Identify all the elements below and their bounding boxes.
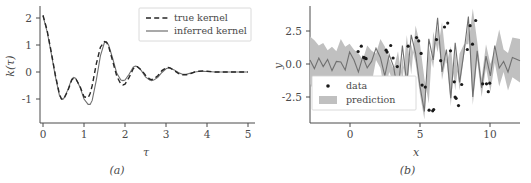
x-tick-a-1: 1 <box>81 128 88 140</box>
prediction-plot: 0 5 10 2.5 0.0 -2.5 x y <box>266 0 531 183</box>
x-tick-a-0: 0 <box>40 128 47 140</box>
x-axis-label-b: x <box>413 146 420 159</box>
panel-b-caption: (b) <box>266 164 531 177</box>
y-tick-b-neg: -2.5 <box>282 91 302 103</box>
legend-a-label-inferred: inferred kernel <box>174 25 247 36</box>
legend-b-band-swatch <box>319 96 337 104</box>
x-tick-a-3: 3 <box>163 128 170 140</box>
y-tick-b-pos: 2.5 <box>285 25 302 37</box>
y-axis-label-a: k(τ) <box>4 55 17 76</box>
x-tick-a-4: 4 <box>204 128 211 140</box>
y-tick-b-zero: 0.0 <box>285 58 302 70</box>
kernel-plot: 0 1 2 3 4 5 2 1 0 -1 τ k(τ) <box>0 0 266 183</box>
y-tick-a-neg1: -1 <box>22 93 32 105</box>
x-ticks-a <box>43 123 248 127</box>
legend-a-label-true: true kernel <box>174 12 228 23</box>
legend-b-label-data: data <box>346 80 368 91</box>
y-ticks-a <box>36 18 40 99</box>
y-tick-a-1: 1 <box>25 39 32 51</box>
y-tick-labels-a: 2 1 0 -1 <box>22 12 32 105</box>
x-axis-label-a: τ <box>143 146 150 159</box>
x-ticks-b <box>350 123 490 127</box>
x-tick-labels-a: 0 1 2 3 4 5 <box>40 128 252 140</box>
x-tick-b-5: 5 <box>417 128 424 140</box>
x-tick-b-0: 0 <box>347 128 354 140</box>
legend-a: true kernel inferred kernel <box>139 8 251 41</box>
y-tick-a-0: 0 <box>25 66 32 78</box>
panel-a: 0 1 2 3 4 5 2 1 0 -1 τ k(τ) <box>0 0 266 183</box>
figure-container: 0 1 2 3 4 5 2 1 0 -1 τ k(τ) <box>0 0 531 183</box>
legend-b-label-prediction: prediction <box>346 94 395 105</box>
panel-a-caption: (a) <box>0 164 266 177</box>
x-tick-a-2: 2 <box>122 128 129 140</box>
legend-b: data prediction <box>312 76 416 110</box>
x-tick-b-10: 10 <box>483 128 496 140</box>
x-tick-labels-b: 0 5 10 <box>347 128 497 140</box>
y-axis-label-b: y <box>272 62 285 70</box>
y-ticks-b <box>306 31 310 97</box>
y-tick-a-2: 2 <box>25 12 32 24</box>
legend-b-dot-swatch <box>326 84 330 88</box>
x-tick-a-5: 5 <box>245 128 252 140</box>
panel-b: 0 5 10 2.5 0.0 -2.5 x y <box>266 0 531 183</box>
